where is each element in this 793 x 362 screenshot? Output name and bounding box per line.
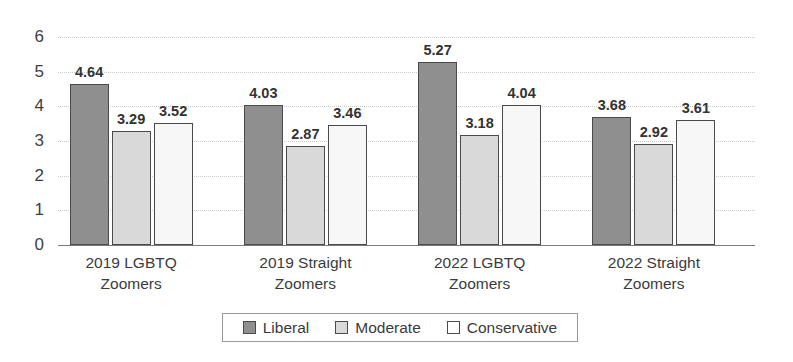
bar-liberal-2 — [244, 105, 283, 245]
x-label-line: Zoomers — [608, 273, 700, 294]
bar-value-label: 4.03 — [249, 85, 277, 101]
bar-value-label: 3.46 — [333, 105, 361, 121]
bar-value-label: 2.87 — [291, 126, 319, 142]
bar-moderate-1 — [112, 131, 151, 245]
bar-moderate-3 — [460, 135, 499, 245]
legend-label: Moderate — [355, 319, 420, 337]
x-axis-category-label: 2022 StraightZoomers — [608, 252, 700, 294]
bar-conservative-1 — [154, 123, 193, 245]
bar-value-label: 5.27 — [424, 42, 452, 58]
y-tick-label: 3 — [35, 131, 44, 151]
x-label-line: Zoomers — [434, 273, 525, 294]
y-tick-label: 1 — [35, 200, 44, 220]
legend-item-conservative[interactable]: Conservative — [447, 319, 557, 337]
bar-conservative-2 — [328, 125, 367, 245]
x-label-line: 2022 Straight — [608, 252, 700, 273]
x-axis-category-label: 2019 StraightZoomers — [259, 252, 351, 294]
bar-value-label: 3.52 — [159, 103, 187, 119]
moderate-swatch — [335, 321, 348, 334]
x-axis-category-label: 2022 LGBTQZoomers — [434, 252, 525, 294]
liberal-swatch — [243, 321, 256, 334]
bar-liberal-4 — [592, 117, 631, 245]
x-axis-line — [58, 245, 755, 246]
x-axis-category-label: 2019 LGBTQZoomers — [85, 252, 176, 294]
legend-label: Liberal — [263, 319, 310, 337]
legend-label: Conservative — [467, 319, 557, 337]
chart-legend: LiberalModerateConservative — [222, 313, 578, 342]
y-axis: 0123456 — [0, 0, 58, 362]
conservative-swatch — [447, 321, 460, 334]
bar-value-label: 3.29 — [117, 111, 145, 127]
x-label-line: 2022 LGBTQ — [434, 252, 525, 273]
legend-item-liberal[interactable]: Liberal — [243, 319, 310, 337]
y-tick-label: 4 — [35, 96, 44, 116]
bar-conservative-3 — [502, 105, 541, 245]
bar-value-label: 2.92 — [640, 124, 668, 140]
bar-moderate-2 — [286, 146, 325, 245]
bar-value-label: 3.18 — [466, 115, 494, 131]
x-label-line: Zoomers — [85, 273, 176, 294]
legend-item-moderate[interactable]: Moderate — [335, 319, 420, 337]
bar-moderate-4 — [634, 144, 673, 245]
y-tick-label: 5 — [35, 62, 44, 82]
x-label-line: 2019 LGBTQ — [85, 252, 176, 273]
bar-value-label: 3.68 — [598, 97, 626, 113]
bar-value-label: 3.61 — [682, 100, 710, 116]
y-tick-label: 6 — [35, 27, 44, 47]
y-tick-label: 2 — [35, 166, 44, 186]
bars-layer: 4.643.293.524.032.873.465.273.184.043.68… — [58, 37, 755, 245]
bar-value-label: 4.04 — [508, 85, 536, 101]
x-label-line: Zoomers — [259, 273, 351, 294]
bar-value-label: 4.64 — [75, 64, 103, 80]
bar-liberal-3 — [418, 62, 457, 245]
bar-liberal-1 — [70, 84, 109, 245]
grouped-bar-chart: 0123456 4.643.293.524.032.873.465.273.18… — [0, 0, 793, 362]
bar-conservative-4 — [676, 120, 715, 245]
y-tick-label: 0 — [35, 235, 44, 255]
x-label-line: 2019 Straight — [259, 252, 351, 273]
